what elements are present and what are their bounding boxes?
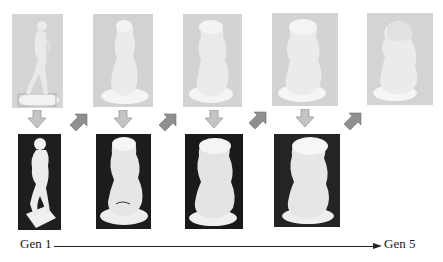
statue-figure-photo-image [18, 134, 61, 230]
render-gen2-panel [93, 14, 153, 107]
down-arrow-icon [205, 110, 223, 128]
render-gen3-panel [183, 14, 242, 107]
diagonal-arrow-icon [159, 113, 177, 131]
diagonal-arrow-icon [70, 113, 88, 131]
photo-gen2-panel [96, 134, 151, 229]
diagonal-arrow-icon [249, 111, 267, 129]
blob-sculpture-photo-image [274, 134, 340, 227]
render-gen4-panel [272, 13, 338, 106]
photo-gen1-panel [18, 134, 61, 230]
down-arrow-icon [28, 110, 46, 128]
arrow-head-icon [373, 243, 382, 249]
photo-gen4-panel [274, 134, 340, 227]
timeline-start-label: Gen 1 [20, 236, 51, 252]
blob-sculpture-photo-image [185, 134, 243, 229]
render-gen1-panel [12, 14, 63, 108]
down-arrow-icon [114, 110, 132, 128]
blob-sculpture-render-image [367, 13, 433, 105]
timeline-end-label: Gen 5 [384, 236, 415, 252]
blob-sculpture-render-image [272, 13, 338, 106]
render-gen5-panel [367, 13, 433, 105]
blob-sculpture-photo-image [96, 134, 151, 229]
down-arrow-icon [296, 109, 314, 127]
photo-gen3-panel [185, 134, 243, 229]
timeline-line [54, 246, 374, 247]
statue-figure-render-image [12, 14, 63, 108]
diagonal-arrow-icon [344, 112, 362, 130]
blob-sculpture-render-image [93, 14, 153, 107]
blob-sculpture-render-image [183, 14, 242, 107]
